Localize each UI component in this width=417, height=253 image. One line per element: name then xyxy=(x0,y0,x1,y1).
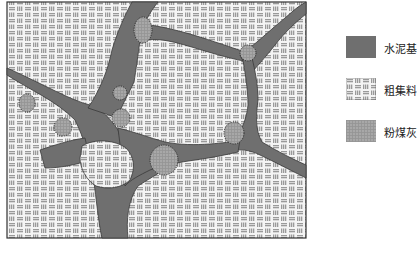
cement-swatch-icon xyxy=(346,36,376,58)
legend: 水泥基 粗集料 粉煤灰 xyxy=(344,0,413,253)
fly-ash-particle xyxy=(54,118,72,136)
fly-ash-particle xyxy=(113,86,127,100)
legend-label: 水泥基 xyxy=(384,40,417,56)
fly-ash-particle xyxy=(224,122,244,144)
fly-ash-particle xyxy=(112,109,130,127)
fly-ash-particle xyxy=(134,17,152,43)
legend-label: 粗集料 xyxy=(384,82,417,98)
fly-ash-particle xyxy=(19,94,35,112)
aggregate-swatch-icon xyxy=(346,78,376,100)
legend-item-aggregate: 粗集料 xyxy=(344,78,413,100)
legend-label: 粉煤灰 xyxy=(384,124,417,140)
legend-item-cement: 水泥基 xyxy=(344,36,413,58)
flyash-swatch-icon xyxy=(346,120,376,142)
legend-item-flyash: 粉煤灰 xyxy=(344,120,413,142)
fly-ash-particle xyxy=(240,45,256,61)
fly-ash-particle xyxy=(150,145,178,175)
